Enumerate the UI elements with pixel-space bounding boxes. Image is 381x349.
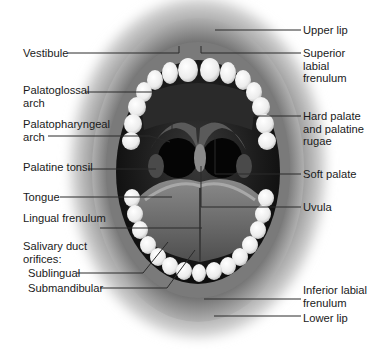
label-superior-labial-frenulum: Superior labial frenulum xyxy=(303,47,347,85)
label-upper-lip: Upper lip xyxy=(303,24,348,37)
label-vestibule: Vestibule xyxy=(23,47,68,60)
label-palatoglossal-arch: Palatoglossal arch xyxy=(23,84,90,109)
oral-cavity-diagram: VestibulePalatoglossal archPalatopharyng… xyxy=(0,0,381,349)
label-hard-palate: Hard palate and palatine rugae xyxy=(303,110,364,148)
label-inferior-labial-frenulum: Inferior labial frenulum xyxy=(303,284,367,309)
label-soft-palate: Soft palate xyxy=(303,168,357,181)
label-uvula: Uvula xyxy=(303,201,332,214)
label-salivary-duct-orifices: Salivary duct orifices: xyxy=(23,240,87,265)
pharynx-left xyxy=(158,138,198,178)
pharynx-right xyxy=(202,138,242,178)
label-submandibular: Submandibular xyxy=(28,282,103,295)
label-tongue: Tongue xyxy=(23,191,60,204)
label-sublingual: Sublingual xyxy=(28,267,80,280)
label-palatine-tonsil: Palatine tonsil xyxy=(23,161,93,174)
label-lingual-frenulum: Lingual frenulum xyxy=(23,212,106,225)
label-lower-lip: Lower lip xyxy=(303,312,348,325)
uvula-shape xyxy=(194,144,206,172)
tonsil-left xyxy=(148,154,164,178)
label-palatopharyngeal-arch: Palatopharyngeal arch xyxy=(23,118,110,143)
